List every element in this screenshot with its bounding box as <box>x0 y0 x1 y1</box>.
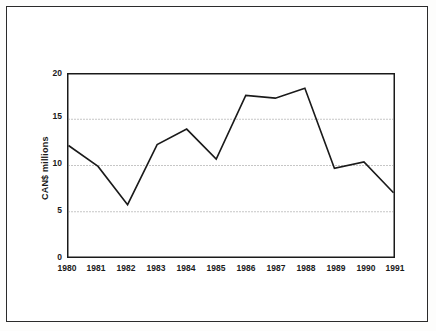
y-tick-label-5: 5 <box>44 206 62 215</box>
y-tick-label-0: 0 <box>44 253 62 262</box>
y-tick-label-15: 15 <box>44 112 62 121</box>
chart-figure: CAN$ millions 20 15 10 5 0 1980 1981 198… <box>0 0 436 331</box>
x-axis-tick-labels: 1980 1981 1982 1983 1984 1985 1986 1987 … <box>0 264 436 278</box>
chart-plot-svg <box>67 73 395 258</box>
x-tick-label-1991: 1991 <box>375 264 415 273</box>
y-tick-label-20: 20 <box>44 69 62 78</box>
y-axis-tick-labels: 20 15 10 5 0 <box>44 0 62 331</box>
y-tick-label-10: 10 <box>44 159 62 168</box>
plot-area <box>67 73 395 258</box>
